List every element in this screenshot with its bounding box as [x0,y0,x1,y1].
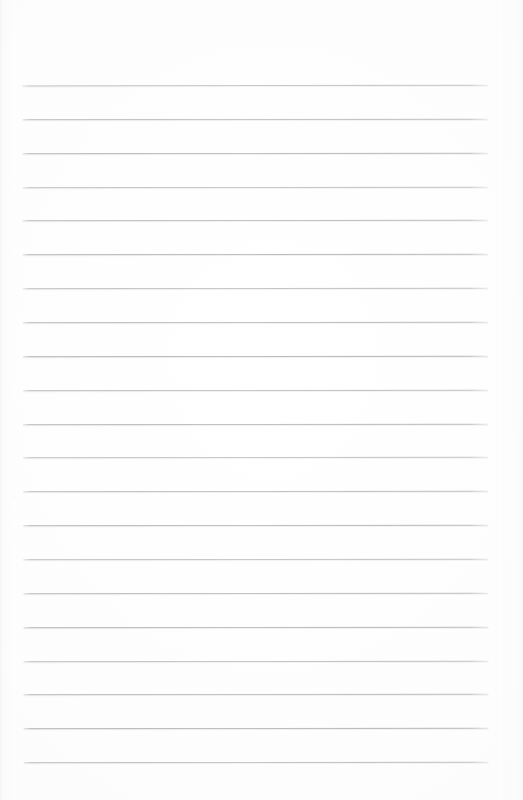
rule-line [23,220,488,222]
rule-line [23,457,488,459]
rule-line [23,660,488,662]
rule-line [24,728,489,730]
rule-line [23,389,488,391]
rule-line [23,559,488,561]
rule-line [24,762,489,764]
rule-line [23,626,488,628]
rule-line [23,186,488,188]
rule-line [23,85,488,87]
rule-line [23,423,488,425]
rule-line [23,254,488,256]
rule-line [23,592,488,594]
ruled-lines-group [0,0,523,800]
rule-line [23,525,488,527]
rule-line [23,491,488,493]
rule-line [23,288,488,290]
rule-line [23,694,488,696]
rule-line [23,152,488,154]
scanned-page [0,0,523,800]
rule-line [23,355,488,357]
rule-line [23,119,488,121]
rule-line [23,322,488,324]
